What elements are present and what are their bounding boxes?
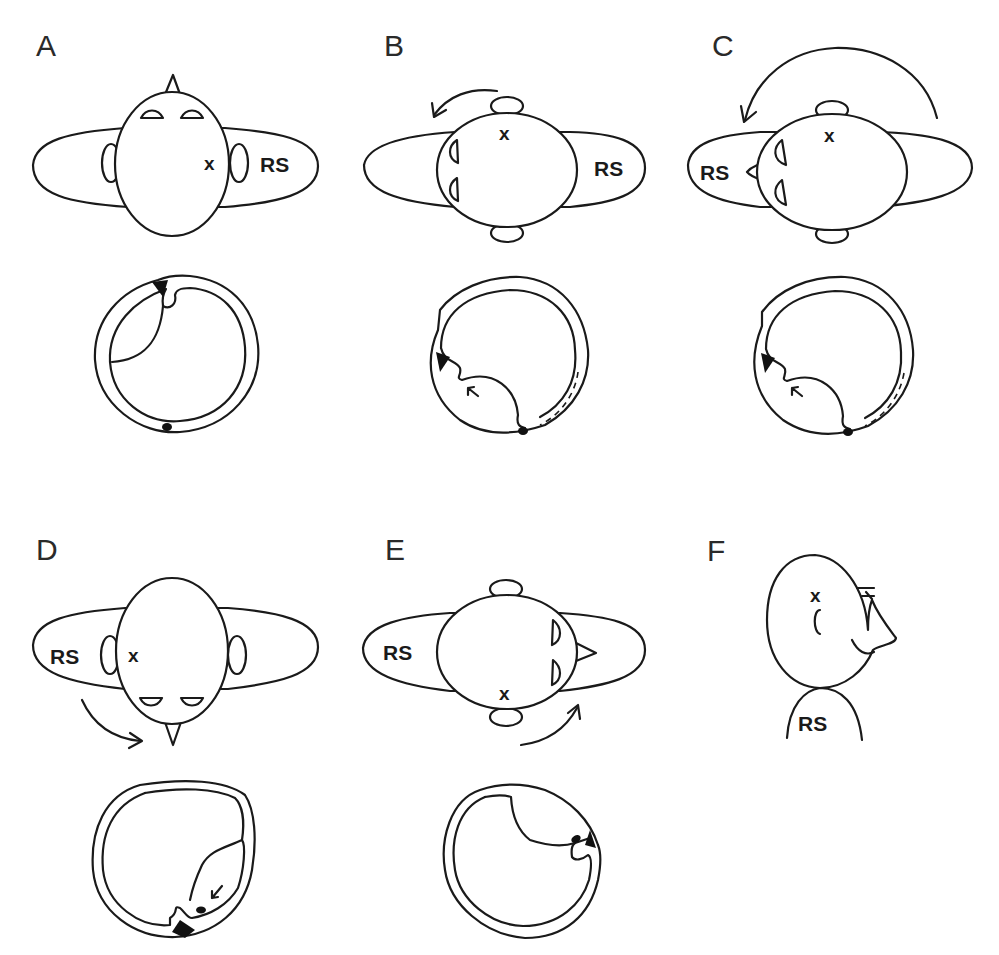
panel-e: E x RS [363, 533, 645, 938]
side-profile-f: RS x [767, 555, 896, 740]
head-icon [767, 555, 896, 688]
labyrinth-e [444, 784, 601, 938]
right-shoulder-label: RS [50, 645, 79, 668]
panel-label-d: D [36, 533, 58, 566]
panel-b: B x RS [364, 29, 645, 435]
nose-icon [165, 722, 181, 745]
affected-ear-marker: x [824, 125, 835, 146]
otoconia-icon [162, 423, 172, 431]
panel-label-c: C [712, 29, 734, 62]
ear-icon [230, 144, 248, 182]
affected-ear-marker: x [499, 683, 510, 704]
otoconia-icon [518, 427, 528, 435]
ear-icon [228, 636, 246, 674]
panel-f: F RS x [707, 534, 896, 740]
affected-ear-marker: x [128, 645, 139, 666]
panel-label-f: F [707, 534, 725, 567]
right-shoulder-label: RS [260, 153, 289, 176]
head-body-top-view-d: x RS [33, 578, 318, 748]
otoconia-icon [843, 428, 853, 436]
affected-ear-marker: x [204, 153, 215, 174]
cupula-icon [761, 353, 775, 373]
flow-arrow-icon [792, 387, 802, 396]
head-body-top-view-e: x RS [363, 580, 645, 745]
epley-diagram: A x RS B [0, 0, 999, 955]
labyrinth-a [95, 276, 258, 433]
affected-ear-marker: x [810, 585, 821, 606]
labyrinth-c [754, 277, 913, 436]
panel-label-e: E [385, 533, 405, 566]
labyrinth-b [431, 277, 588, 435]
right-shoulder-label: RS [383, 641, 412, 664]
head-body-top-view-c: x RS [688, 48, 972, 243]
head-body-top-view-b: x RS [364, 90, 645, 242]
head-body-top-view-a: x RS [33, 75, 318, 236]
flow-arrow-icon [468, 387, 478, 396]
right-shoulder-label: RS [594, 157, 623, 180]
panel-c: C x RS [688, 29, 972, 436]
ear-icon [490, 708, 522, 726]
panel-label-a: A [36, 29, 56, 62]
right-shoulder-label: RS [700, 161, 729, 184]
affected-ear-marker: x [499, 123, 510, 144]
otoconia-icon [196, 907, 206, 914]
labyrinth-d [93, 781, 255, 938]
right-shoulder-label: RS [798, 712, 827, 735]
flow-arrow-icon [212, 886, 222, 898]
panel-label-b: B [384, 29, 404, 62]
panel-d: D x RS [33, 533, 318, 938]
cupula-icon [436, 352, 450, 372]
panel-a: A x RS [33, 29, 318, 432]
